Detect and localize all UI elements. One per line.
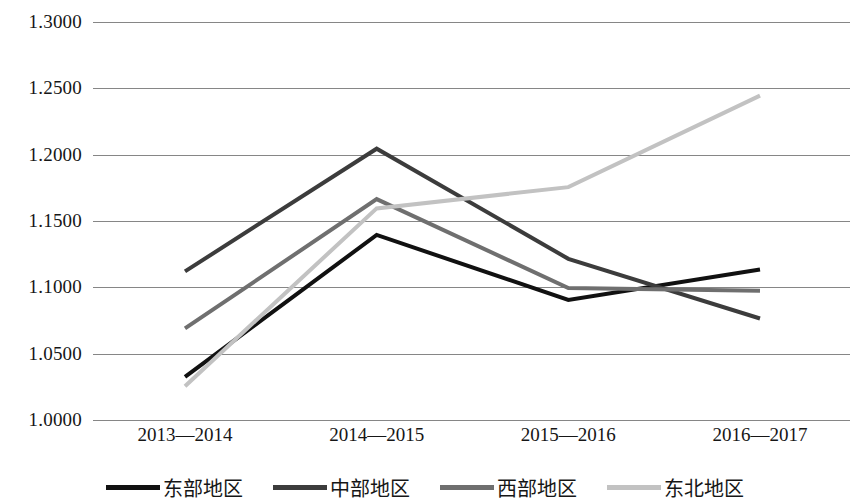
legend-item[interactable]: 东北地区 bbox=[607, 473, 744, 502]
legend-swatch-icon bbox=[106, 485, 160, 490]
y-axis-tick-label: 1.1500 bbox=[29, 210, 82, 232]
plot-area bbox=[93, 0, 850, 440]
y-axis: 1.00001.05001.10001.15001.20001.25001.30… bbox=[0, 0, 86, 440]
y-axis-tick-label: 1.1000 bbox=[29, 276, 82, 298]
series-layer bbox=[93, 0, 850, 440]
x-axis-tick-label: 2016—2017 bbox=[713, 424, 808, 446]
legend-label: 西部地区 bbox=[497, 473, 577, 502]
legend-item[interactable]: 西部地区 bbox=[440, 473, 577, 502]
legend-item[interactable]: 东部地区 bbox=[106, 473, 243, 502]
series-line bbox=[185, 96, 760, 387]
y-axis-tick-label: 1.0500 bbox=[29, 343, 82, 365]
x-axis-tick-label: 2014—2015 bbox=[329, 424, 424, 446]
x-axis-tick-label: 2015—2016 bbox=[521, 424, 616, 446]
legend-label: 东部地区 bbox=[163, 473, 243, 502]
legend-swatch-icon bbox=[273, 485, 327, 490]
y-axis-tick-label: 1.0000 bbox=[29, 409, 82, 431]
x-axis-tick-label: 2013—2014 bbox=[138, 424, 233, 446]
legend-swatch-icon bbox=[440, 485, 494, 490]
line-chart: 1.00001.05001.10001.15001.20001.25001.30… bbox=[0, 0, 850, 504]
x-axis: 2013—20142014—20152015—20162016—2017 bbox=[93, 424, 850, 454]
legend-item[interactable]: 中部地区 bbox=[273, 473, 410, 502]
y-axis-tick-label: 1.3000 bbox=[29, 11, 82, 33]
legend-swatch-icon bbox=[607, 485, 661, 490]
legend-label: 东北地区 bbox=[664, 473, 744, 502]
series-line bbox=[185, 149, 760, 319]
chart-legend: 东部地区中部地区西部地区东北地区 bbox=[0, 470, 850, 504]
legend-label: 中部地区 bbox=[330, 473, 410, 502]
y-axis-tick-label: 1.2000 bbox=[29, 144, 82, 166]
y-axis-tick-label: 1.2500 bbox=[29, 77, 82, 99]
